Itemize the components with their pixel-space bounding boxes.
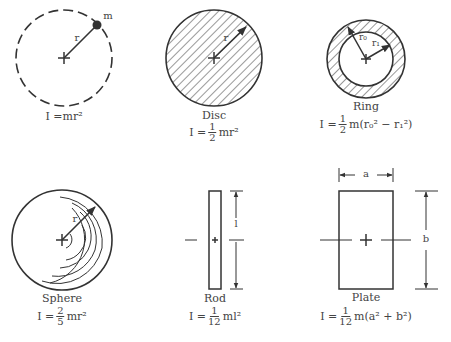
ring-outer-radius-label: r₀ (359, 32, 367, 42)
sphere-radius-label: r (73, 213, 78, 224)
sphere-label: Sphere (42, 292, 82, 305)
plate-height-label: b (423, 233, 429, 244)
plate-figure (320, 168, 438, 289)
ring-inner-radius-label: r₁ (372, 38, 380, 48)
rod-label: Rod (204, 292, 226, 305)
sphere-formula: I = 25 mr² (37, 306, 87, 327)
mass-label: m (103, 10, 112, 21)
moment-of-inertia-diagram (0, 0, 451, 342)
rod-length-label: l (234, 218, 237, 229)
ring-label: Ring (353, 100, 379, 113)
disc-formula: I = 12 mr² (189, 122, 239, 143)
mass-dot-icon (93, 21, 102, 30)
plate-width-label: a (363, 168, 369, 179)
rod-figure (185, 191, 244, 289)
radius-label: r (75, 32, 80, 43)
sphere-figure (12, 190, 112, 290)
plate-label: Plate (352, 291, 380, 304)
disc-radius-label: r (224, 32, 229, 43)
plate-formula: I = 112 m(a² + b²) (320, 306, 411, 327)
rod-formula: I = 112 ml² (189, 306, 241, 327)
point-mass-formula: I = mr² (45, 110, 82, 123)
disc-figure (166, 10, 262, 106)
point-mass-figure (16, 10, 112, 106)
ring-formula: I = 12 m(r₀² − r₁²) (320, 114, 413, 135)
